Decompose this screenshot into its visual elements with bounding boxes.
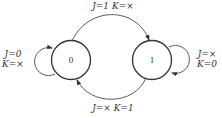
state-0-label: 0 (69, 55, 74, 65)
state-diagram: J=1 K=× J=× K=1 J=0 K=× J=× K=0 0 1 (0, 0, 222, 118)
self-loop-1-label-k: K=0 (196, 59, 217, 69)
self-loop-1-label-j: J=× (196, 49, 217, 59)
state-1: 1 (133, 41, 172, 80)
transition-0-to-1-label: J=1 K=× (90, 1, 134, 11)
self-loop-0-label-k: K=× (1, 59, 24, 69)
transition-0-to-1-arrow (72, 15, 149, 41)
transition-1-to-0-label: J=× K=1 (90, 103, 134, 113)
self-loop-0-label-j: J=0 (3, 49, 22, 59)
transition-1-to-0-arrow (77, 78, 146, 99)
state-0: 0 (52, 41, 91, 80)
state-1-label: 1 (150, 55, 155, 65)
